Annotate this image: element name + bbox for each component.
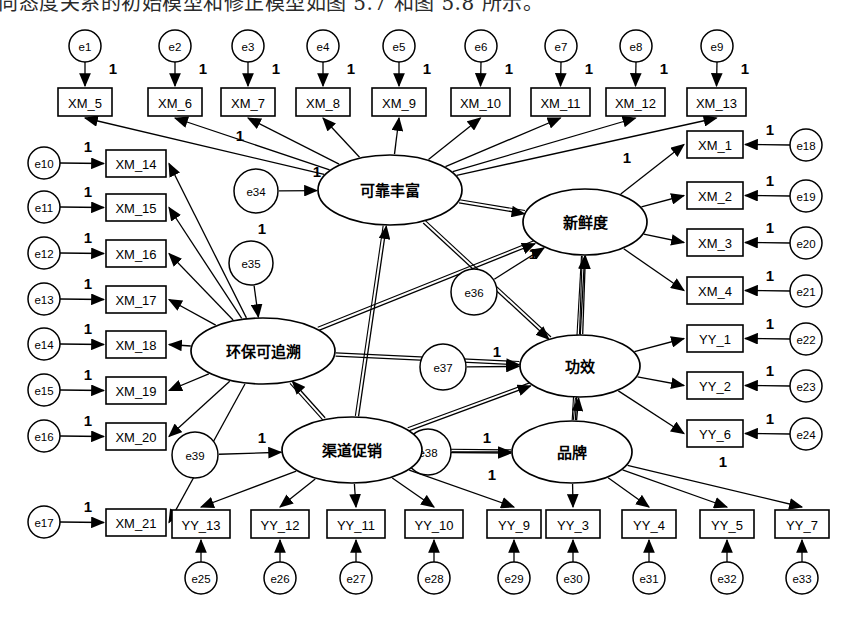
fixed-loading-label: 1 (84, 138, 92, 155)
error-term-label: e5 (393, 41, 406, 53)
error-term-label: e8 (630, 41, 643, 53)
observed-variable-label: XM_14 (115, 157, 156, 172)
observed-variable-label: YY_3 (557, 518, 589, 533)
error-term-node: e7 (545, 30, 577, 62)
latent-variable-label: 功效 (565, 358, 596, 376)
observed-variable-node: XM_20 (106, 423, 166, 450)
error-term-label: e21 (796, 286, 815, 298)
latent-variable-node: 渠道促销 (282, 417, 422, 483)
latent-variable-label: 品牌 (557, 444, 587, 462)
error-term-label: e2 (169, 41, 182, 53)
fixed-loading-label: 1 (272, 60, 280, 77)
latent-variable-label: 渠道促销 (322, 442, 382, 460)
error-term-label: e22 (796, 334, 815, 346)
fixed-loading-label: 1 (199, 60, 207, 77)
fixed-loading-label: 1 (766, 315, 774, 332)
fixed-loading-label: 1 (505, 60, 513, 77)
observed-variable-label: XM_1 (698, 138, 732, 153)
observed-variable-node: YY_2 (687, 372, 743, 399)
observed-variable-label: YY_4 (633, 518, 665, 533)
error-term-label: e6 (475, 41, 488, 53)
observed-variable-label: XM_6 (158, 96, 192, 111)
error-term-label: e37 (433, 362, 452, 374)
fixed-loading-label: 1 (585, 60, 593, 77)
observed-variable-label: YY_13 (181, 518, 220, 533)
error-term-label: e17 (34, 517, 53, 529)
observed-variable-node: XM_16 (106, 240, 166, 267)
structural-residual-node: e39 (172, 432, 218, 478)
error-term-node: e31 (633, 562, 665, 594)
error-term-label: e10 (34, 158, 53, 170)
observed-variable-node: XM_5 (58, 88, 112, 116)
observed-variable-node: YY_5 (700, 510, 754, 538)
fixed-loading-label: 1 (84, 229, 92, 246)
latent-variable-node: 环保可追溯 (191, 318, 335, 384)
error-term-node: e17 (28, 506, 60, 538)
latent-variable-node: 品牌 (512, 421, 632, 483)
observed-variable-node: XM_8 (296, 88, 350, 116)
fixed-loading-label: 1 (660, 60, 668, 77)
error-term-node: e30 (557, 562, 589, 594)
fixed-loading-label: 1 (84, 320, 92, 337)
observed-variable-node: XM_19 (106, 377, 166, 404)
error-term-node: e3 (232, 30, 264, 62)
observed-variable-label: YY_9 (498, 518, 530, 533)
observed-variable-label: XM_21 (115, 516, 156, 531)
observed-variable-label: XM_2 (698, 189, 732, 204)
error-term-label: e11 (35, 202, 53, 214)
error-term-label: e9 (711, 41, 724, 53)
error-term-label: e12 (34, 248, 53, 260)
observed-variable-node: YY_11 (327, 510, 385, 538)
fixed-loading-label: 1 (719, 453, 727, 470)
observed-variable-node: XM_17 (106, 286, 166, 313)
error-term-node: e18 (790, 129, 822, 161)
error-term-node: e8 (620, 30, 652, 62)
error-term-label: e34 (246, 186, 266, 198)
error-term-node: e5 (383, 30, 415, 62)
observed-variable-node: XM_14 (106, 150, 166, 177)
error-term-node: e10 (28, 147, 60, 179)
fixed-loading-label: 1 (423, 60, 431, 77)
observed-variable-node: YY_6 (687, 420, 743, 447)
structural-residual-node: e35 (229, 241, 273, 285)
observed-variable-label: XM_17 (115, 293, 156, 308)
error-term-label: e16 (34, 431, 53, 443)
error-term-label: e25 (191, 573, 210, 585)
error-term-label: e35 (241, 258, 260, 270)
latent-variable-node: 可靠丰富 (318, 155, 462, 225)
structural-residual-node: e36 (451, 269, 497, 315)
error-term-label: e3 (242, 41, 255, 53)
fixed-loading-label: 1 (258, 429, 266, 446)
error-term-node: e11 (28, 191, 60, 223)
latent-variable-label: 环保可追溯 (226, 343, 301, 361)
error-term-node: e13 (28, 283, 60, 315)
observed-variable-node: XM_1 (687, 131, 743, 158)
observed-variable-label: YY_2 (699, 379, 731, 394)
observed-variable-node: XM_11 (531, 88, 590, 116)
fixed-loading-label: 1 (766, 172, 774, 189)
observed-variable-node: XM_4 (687, 277, 743, 304)
error-term-label: e13 (34, 294, 53, 306)
observed-variable-label: YY_1 (699, 332, 731, 347)
observed-variable-label: YY_6 (699, 427, 731, 442)
error-term-node: e21 (790, 275, 822, 307)
error-term-node: e19 (790, 180, 822, 212)
error-term-node: e29 (498, 562, 530, 594)
sem-path-diagram: XM_5e1XM_6e2XM_7e3XM_8e4XM_9e5XM_10e6XM_… (0, 0, 847, 640)
error-term-node: e16 (28, 420, 60, 452)
observed-variable-node: YY_10 (405, 510, 463, 538)
fixed-loading-label: 1 (493, 343, 501, 360)
error-term-node: e9 (701, 30, 733, 62)
fixed-loading-label: 1 (766, 121, 774, 138)
observed-variable-node: XM_10 (451, 88, 510, 116)
error-term-label: e33 (792, 573, 811, 585)
observed-variable-node: XM_21 (106, 509, 166, 536)
observed-variable-label: XM_7 (231, 96, 265, 111)
error-term-label: e28 (424, 573, 443, 585)
observed-variable-label: YY_12 (260, 518, 299, 533)
observed-variable-label: XM_13 (696, 96, 737, 111)
error-term-node: e32 (711, 562, 743, 594)
observed-variable-label: YY_10 (414, 518, 453, 533)
error-term-label: e26 (270, 573, 289, 585)
structural-residual-node: e34 (234, 169, 278, 213)
